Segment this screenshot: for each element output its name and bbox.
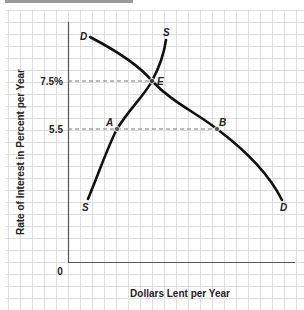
- grid: [6, 10, 304, 310]
- point-e-label: E: [157, 76, 164, 87]
- point-e-marker: [149, 78, 154, 83]
- x-axis-title: Dollars Lent per Year: [130, 288, 230, 299]
- loanable-funds-chart: D S E A B S D 7.5% 5.5 0 Dollars Lent pe…: [0, 0, 304, 310]
- y-axis-title: Rate of Interest in Percent per Year: [15, 69, 26, 235]
- tick-label-7-5: 7.5%: [40, 76, 63, 87]
- demand-label-top: D: [80, 31, 87, 42]
- tick-label-5-5: 5.5: [49, 124, 63, 135]
- demand-label-bottom: D: [280, 202, 287, 213]
- origin-label: 0: [57, 266, 63, 277]
- point-a-marker: [114, 126, 119, 131]
- supply-curve: [88, 40, 166, 199]
- supply-label-bottom: S: [82, 202, 89, 213]
- point-b-label: B: [219, 117, 226, 128]
- point-a-label: A: [105, 117, 113, 128]
- supply-label-top: S: [163, 27, 170, 38]
